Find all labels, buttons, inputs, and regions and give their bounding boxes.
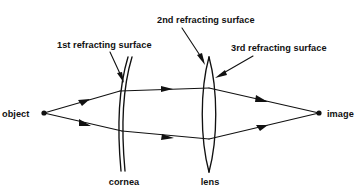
ray-arrowhead-upper-1 [78,99,90,106]
leader-surface-3 [215,56,253,78]
ray-arrowhead-lower-1 [79,119,91,126]
second-refracting-surface-label: 2nd refracting surface [157,15,255,25]
object-label: object [2,109,29,119]
leader-surface-2 [182,28,205,65]
object-point-marker [41,110,46,115]
leader-surface-1 [110,52,124,83]
ray-arrowhead-upper-2 [161,86,173,92]
image-point-marker [316,110,321,115]
ray-upper [44,86,319,113]
third-refracting-surface-label: 3rd refracting surface [231,43,327,53]
ray-diagram-canvas: object image cornea lens 1st refracting … [0,0,363,192]
annotation-leaders [110,28,253,83]
optics-diagram: object image cornea lens 1st refracting … [0,0,363,192]
first-refracting-surface-label: 1st refracting surface [57,40,152,50]
ray-arrowhead-upper-3 [255,95,268,102]
lens-left-arc [202,57,209,172]
lens-label: lens [201,177,220,187]
leader-arrowhead-surface-2 [197,53,205,65]
lens-surface [202,57,216,172]
image-label: image [327,109,354,119]
lens-right-arc [209,57,216,172]
ray-bundle [44,86,319,140]
cornea-label: cornea [109,177,140,187]
ray-lower [44,113,319,140]
leader-arrowhead-surface-3 [215,70,227,78]
leader-arrowhead-surface-1 [117,72,124,83]
